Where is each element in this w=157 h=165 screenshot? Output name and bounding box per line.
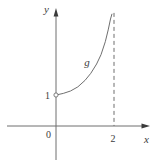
- curve-g: [56, 14, 112, 95]
- y-axis-arrowhead-icon: [54, 8, 59, 17]
- x-tick-label-2: 2: [111, 133, 116, 144]
- x-axis-arrowhead-icon: [142, 124, 151, 129]
- origin-label: 0: [46, 129, 51, 140]
- open-endpoint: [54, 93, 58, 97]
- x-axis-label: x: [143, 133, 149, 145]
- graph-canvas: y x 0 1 2 g: [0, 0, 157, 165]
- function-graph-figure: y x 0 1 2 g: [0, 0, 157, 165]
- curve-label: g: [84, 56, 90, 68]
- y-axis-label: y: [43, 3, 49, 15]
- y-tick-label-1: 1: [45, 90, 50, 101]
